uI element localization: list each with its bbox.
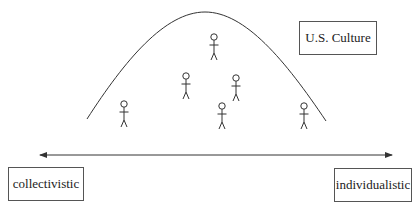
individualistic-label-box: individualistic xyxy=(334,168,412,202)
us-culture-label: U.S. Culture xyxy=(305,30,370,46)
stick-person-icon xyxy=(232,75,241,101)
stick-person-icon xyxy=(120,101,129,127)
individualistic-label: individualistic xyxy=(336,177,410,193)
bell-curve xyxy=(87,12,326,121)
stick-person-icon xyxy=(210,34,219,60)
collectivistic-label-box: collectivistic xyxy=(8,167,84,201)
people-group xyxy=(120,34,309,129)
us-culture-label-box: U.S. Culture xyxy=(299,21,377,55)
stick-person-icon xyxy=(182,73,191,99)
stick-person-icon xyxy=(300,103,309,129)
stick-person-icon xyxy=(218,103,227,129)
collectivistic-label: collectivistic xyxy=(13,176,79,192)
